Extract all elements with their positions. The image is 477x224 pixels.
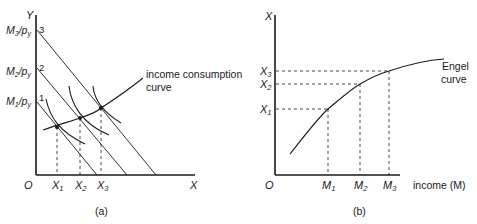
equilibrium-point-1 <box>55 125 59 129</box>
budget-line-number-1: 1 <box>39 92 44 103</box>
equilibrium-point-2 <box>78 116 82 120</box>
panel-a-x-tick-1: X1 <box>51 179 64 193</box>
icc-label-line-2: curve <box>146 81 172 93</box>
equilibrium-point-3 <box>99 106 103 110</box>
panel-b-y-tick-3: X3 <box>259 65 272 79</box>
panel-a-caption: (a) <box>95 205 108 217</box>
panel-a-x-axis-label: X <box>189 179 198 191</box>
intercept-label-1: M1/py <box>6 95 31 109</box>
panel-a-x-tick-2: X2 <box>74 179 87 193</box>
intercept-label-3: M3/py <box>6 24 31 38</box>
engel-curve-diagram: Y X O M3/py M2/py M1/py 3 2 1 X1 X2 X3 i… <box>0 0 477 224</box>
panel-b-x-tick-1: M1 <box>322 179 335 193</box>
panel-b-x-tick-3: M3 <box>383 179 397 193</box>
panel-b-x-axis-label: income (M) <box>413 179 466 191</box>
panel-b-y-tick-1: X1 <box>259 103 272 117</box>
panel-b <box>275 15 444 175</box>
income-consumption-curve <box>43 78 143 130</box>
panel-a-x-tick-3: X3 <box>96 179 109 193</box>
panel-a-origin-label: O <box>24 179 33 191</box>
panel-a-y-axis-label: Y <box>26 9 34 21</box>
budget-line-1 <box>37 102 97 175</box>
panel-b-x-tick-2: M2 <box>354 179 368 193</box>
intercept-label-2: M2/py <box>6 65 31 79</box>
panel-b-y-axis-label: X <box>264 10 273 22</box>
budget-line-number-2: 2 <box>39 62 44 73</box>
panel-a <box>36 15 195 175</box>
engel-curve <box>290 59 444 154</box>
panel-b-y-tick-2: X2 <box>259 78 272 92</box>
budget-line-3 <box>37 30 156 175</box>
icc-label-line-1: income consumption <box>146 68 242 80</box>
budget-line-2 <box>37 68 127 175</box>
panel-b-origin-label: O <box>265 179 274 191</box>
engel-label-line-2: curve <box>441 73 467 85</box>
budget-line-number-3: 3 <box>39 24 44 35</box>
engel-label-line-1: Engel <box>442 60 469 72</box>
panel-b-caption: (b) <box>353 205 366 217</box>
